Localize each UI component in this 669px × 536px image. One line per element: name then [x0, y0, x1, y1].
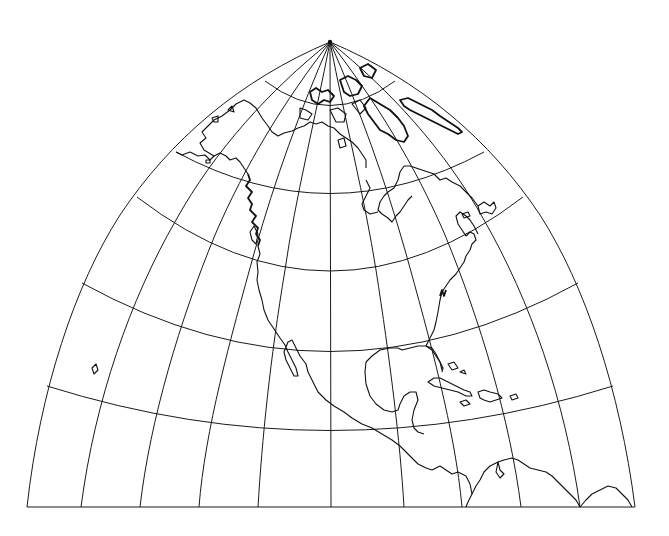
island-prince-edward — [462, 212, 470, 218]
island-jamaica — [460, 400, 470, 406]
coast-central-america — [418, 464, 472, 507]
meridian-1 — [81, 42, 330, 507]
island-bahamas-2 — [460, 370, 466, 374]
coast-mexico-pacific — [308, 372, 418, 464]
coast-south-america — [472, 458, 580, 507]
coast-chesapeake — [440, 290, 446, 296]
meridian-3 — [199, 42, 330, 507]
meridian-7 — [330, 42, 462, 507]
coast-lake-maracaibo — [496, 462, 504, 478]
meridian-right-boundary — [330, 42, 635, 507]
parallel-50 — [82, 283, 578, 352]
coast-south-america-east — [580, 486, 632, 507]
coast-hudson-bay — [378, 166, 412, 222]
island-cuba — [428, 378, 472, 396]
coast-arctic-islands-7 — [338, 138, 346, 148]
island-puerto-rico — [510, 394, 518, 400]
coastlines — [92, 64, 632, 507]
coast-alaska — [176, 100, 298, 160]
map-canvas — [0, 0, 669, 536]
coast-newfoundland — [478, 202, 496, 214]
parallel-40 — [47, 386, 613, 431]
island-bahamas — [448, 362, 458, 370]
coast-gulf-of-mexico — [366, 346, 443, 372]
meridian-4 — [258, 42, 330, 507]
north-pole-marker — [328, 40, 332, 44]
coast-alaska-south — [214, 153, 248, 174]
island-hawaii — [92, 364, 98, 374]
coast-baffin-island — [364, 98, 408, 142]
coast-baja — [280, 338, 308, 376]
island-alaska — [206, 160, 210, 163]
coast-arctic-islands-3 — [360, 64, 376, 78]
